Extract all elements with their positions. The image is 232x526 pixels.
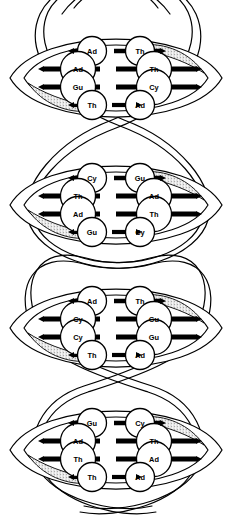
helix-turn-3: Ad Th Cy Gu Cy Gu Th Ad — [10, 287, 222, 370]
base-label: Th — [149, 437, 159, 446]
base-label: Ad — [87, 297, 97, 306]
base-label: Th — [73, 455, 83, 464]
base-label: Th — [135, 297, 145, 306]
base-label: Ad — [73, 65, 83, 74]
base-label: Th — [135, 47, 145, 56]
base-label: Ad — [73, 210, 83, 219]
base-label: Gu — [87, 228, 98, 237]
base-label: Cy — [149, 83, 159, 92]
base-label: Cy — [87, 174, 97, 183]
base-label: Cy — [73, 333, 83, 342]
base-label: Cy — [135, 228, 145, 237]
dna-diagram-canvas: Ad Th Ad Th Gu Cy Th Ad Cy Gu Th Ad Ad T… — [0, 0, 232, 526]
base-label: Ad — [149, 455, 159, 464]
base-label: Th — [149, 210, 159, 219]
base-label: Gu — [73, 83, 84, 92]
base-label: Ad — [135, 473, 145, 482]
base-label: Ad — [135, 351, 145, 360]
base-label: Gu — [87, 419, 98, 428]
base-label: Gu — [135, 174, 146, 183]
helix-turn-1: Ad Th Ad Th Gu Cy Th Ad — [10, 37, 222, 120]
base-label: Th — [149, 65, 159, 74]
base-label: Ad — [135, 101, 145, 110]
base-label: Th — [87, 101, 97, 110]
base-label: Cy — [135, 419, 145, 428]
base-label: Th — [87, 351, 97, 360]
dna-double-helix-figure: Ad Th Ad Th Gu Cy Th Ad Cy Gu Th Ad Ad T… — [0, 0, 232, 526]
base-label: Ad — [149, 192, 159, 201]
base-label: Th — [73, 192, 83, 201]
base-label: Gu — [149, 333, 160, 342]
base-label: Ad — [87, 47, 97, 56]
base-label: Ad — [73, 437, 83, 446]
base-label: Cy — [73, 315, 83, 324]
base-label: Th — [87, 473, 97, 482]
base-label: Gu — [149, 315, 160, 324]
